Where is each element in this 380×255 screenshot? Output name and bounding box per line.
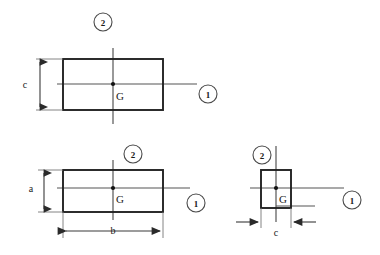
top-left-axis-1-label: 1: [206, 90, 211, 100]
top-left-height-dimension-label: c: [23, 79, 28, 90]
bottom-left-axis-2-label: 2: [131, 150, 136, 160]
top-left-centroid-dot: [111, 82, 115, 86]
bottom-left-height-dimension-label: a: [29, 183, 34, 194]
bottom-right-centroid-dot: [274, 186, 278, 190]
bottom-left-axis-1-label: 1: [194, 199, 199, 209]
cross-section-diagram: c G 2 1 a: [0, 0, 380, 255]
bottom-left-centroid-dot: [111, 186, 115, 190]
bottom-right-axis-2-label: 2: [260, 151, 265, 161]
bottom-right-width-dimension-label: c: [274, 227, 279, 238]
top-left-axis-2-label: 2: [101, 18, 106, 28]
top-left-section: c G 2 1: [23, 13, 217, 124]
bottom-right-centroid-label: G: [279, 193, 287, 205]
bottom-left-width-dimension-label: b: [111, 225, 116, 236]
bottom-right-section: c G 2 1: [236, 146, 361, 238]
bottom-left-section: a b G 2 1: [29, 145, 205, 238]
diagram-canvas: c G 2 1 a: [0, 0, 380, 255]
bottom-right-axis-1-label: 1: [350, 196, 355, 206]
top-left-centroid-label: G: [116, 90, 124, 102]
bottom-left-centroid-label: G: [116, 193, 124, 205]
